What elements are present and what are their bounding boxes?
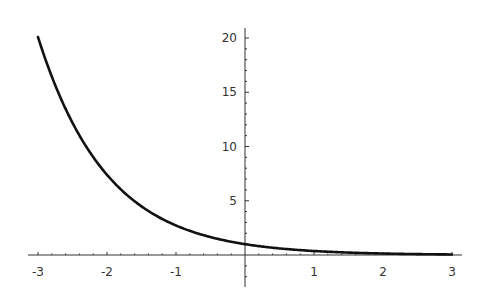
x-tick-label: -1 — [170, 265, 182, 279]
y-axis: 5101520 — [222, 28, 249, 287]
x-tick-label: 3 — [448, 265, 456, 279]
y-tick-labels: 5101520 — [222, 31, 237, 208]
y-tick-label: 15 — [222, 85, 237, 99]
y-tick-label: 10 — [222, 140, 237, 154]
x-tick-label: -2 — [101, 265, 113, 279]
y-minor-ticks — [245, 38, 249, 277]
y-tick-label: 20 — [222, 31, 237, 45]
exp-decay-plot: -3-2-1123 5101520 — [0, 0, 486, 297]
x-tick-label: 1 — [310, 265, 318, 279]
y-tick-label: 5 — [229, 194, 237, 208]
x-tick-label: -3 — [32, 265, 44, 279]
x-tick-label: 2 — [379, 265, 387, 279]
x-tick-labels: -3-2-1123 — [32, 265, 456, 279]
